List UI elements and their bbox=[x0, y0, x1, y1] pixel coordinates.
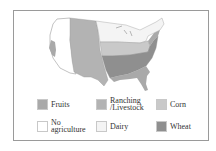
ranching-swatch bbox=[96, 99, 107, 110]
wheat-swatch bbox=[156, 121, 167, 132]
dairy-swatch bbox=[96, 121, 107, 132]
legend-label: Fruits bbox=[51, 101, 70, 108]
legend-label: Wheat bbox=[170, 123, 191, 130]
legend-item-corn: Corn bbox=[156, 99, 186, 110]
legend-item-dairy: Dairy bbox=[96, 121, 128, 132]
no-agriculture-swatch bbox=[37, 121, 48, 132]
fruits-swatch bbox=[37, 99, 48, 110]
legend-item-wheat: Wheat bbox=[156, 121, 191, 132]
legend-label: Ranching /Livestock bbox=[110, 97, 144, 111]
legend-label: Corn bbox=[170, 101, 186, 108]
legend-label: Dairy bbox=[110, 123, 128, 130]
corn-swatch bbox=[156, 99, 167, 110]
legend-item-no-agriculture: No agriculture bbox=[37, 119, 86, 133]
legend: Fruits Ranching /Livestock Corn No agric… bbox=[0, 0, 216, 151]
legend-item-fruits: Fruits bbox=[37, 99, 70, 110]
legend-item-ranching: Ranching /Livestock bbox=[96, 97, 144, 111]
legend-label: No agriculture bbox=[51, 119, 86, 133]
